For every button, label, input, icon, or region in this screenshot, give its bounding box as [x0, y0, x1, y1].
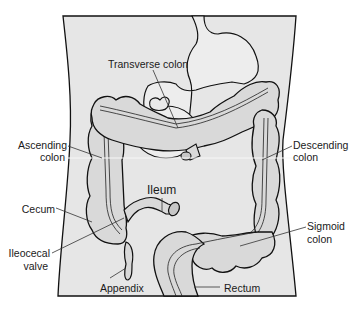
label-ascending-colon-line1: Ascending — [10, 139, 67, 151]
label-ileocecal-valve-line1: Ileocecal — [5, 247, 50, 259]
label-ileum: Ileum — [147, 184, 176, 196]
label-cecum: Cecum — [10, 203, 55, 215]
descending-colon — [252, 110, 280, 238]
label-appendix: Appendix — [100, 282, 144, 294]
label-ileocecal-valve-line2: valve — [5, 260, 48, 272]
label-transverse-colon: Transverse colon — [108, 58, 188, 70]
label-rectum: Rectum — [224, 282, 260, 294]
appendix — [125, 242, 133, 280]
label-sigmoid-colon-line1: Sigmoid — [307, 220, 345, 232]
label-descending-colon-line2: colon — [293, 151, 318, 163]
label-sigmoid-colon-line2: colon — [307, 233, 332, 245]
pancreas-knot — [150, 97, 169, 110]
label-ascending-colon-line2: colon — [10, 151, 65, 163]
label-descending-colon-line1: Descending — [293, 139, 348, 151]
